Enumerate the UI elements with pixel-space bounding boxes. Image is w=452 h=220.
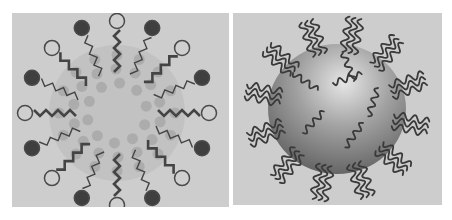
dark-head-group bbox=[145, 190, 160, 205]
light-head-group bbox=[44, 40, 59, 55]
polymer-coated-nanoparticle-illustration bbox=[233, 13, 442, 205]
core-dot bbox=[109, 137, 120, 148]
core-dot bbox=[131, 85, 142, 96]
dark-head-group bbox=[74, 190, 89, 205]
core-dot bbox=[82, 114, 93, 125]
light-head-group bbox=[110, 14, 125, 29]
light-head-group bbox=[175, 40, 190, 55]
light-head-group bbox=[44, 171, 59, 186]
core-dot bbox=[84, 96, 95, 107]
nanoparticle-panel bbox=[233, 13, 442, 205]
core-dot bbox=[69, 118, 80, 129]
dark-head-group bbox=[25, 70, 40, 85]
core-dot bbox=[114, 78, 125, 89]
micelle-panel bbox=[12, 13, 229, 207]
dark-head-group bbox=[145, 21, 160, 36]
dark-head-group bbox=[25, 141, 40, 156]
light-head-group bbox=[110, 198, 125, 208]
core-dot bbox=[68, 99, 79, 110]
core-dot bbox=[141, 101, 152, 112]
core-dot bbox=[139, 119, 150, 130]
light-head-group bbox=[202, 106, 217, 121]
core-dot bbox=[155, 116, 166, 127]
dark-head-group bbox=[194, 70, 209, 85]
core-dot bbox=[154, 97, 165, 108]
core-dot bbox=[96, 82, 107, 93]
dark-head-group bbox=[74, 21, 89, 36]
light-head-group bbox=[175, 171, 190, 186]
light-head-group bbox=[18, 106, 33, 121]
core-dot bbox=[127, 133, 138, 144]
micelle-illustration bbox=[12, 13, 229, 207]
core-dot bbox=[92, 130, 103, 141]
dark-head-group bbox=[194, 141, 209, 156]
